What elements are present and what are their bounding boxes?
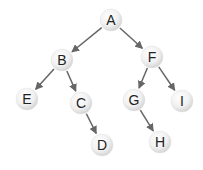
- node-label: D: [97, 137, 107, 153]
- edge-f-i: [159, 67, 175, 90]
- tree-node-a: A: [100, 9, 122, 31]
- edge-b-e: [36, 69, 54, 89]
- edges-group: [36, 28, 175, 134]
- node-label: H: [155, 134, 165, 150]
- tree-node-i: I: [171, 90, 193, 112]
- tree-node-c: C: [70, 92, 92, 114]
- tree-node-d: D: [91, 134, 113, 156]
- node-label: C: [76, 95, 86, 111]
- node-label: F: [148, 49, 157, 65]
- tree-diagram: ABFECGIDH: [0, 0, 203, 170]
- tree-node-g: G: [123, 89, 145, 111]
- tree-node-b: B: [51, 49, 73, 71]
- edge-b-c: [67, 71, 76, 91]
- tree-node-h: H: [149, 131, 171, 153]
- node-label: G: [129, 92, 140, 108]
- edge-a-f: [120, 28, 142, 48]
- node-label: E: [22, 91, 31, 107]
- node-label: B: [57, 52, 66, 68]
- edge-c-d: [86, 114, 96, 134]
- tree-node-f: F: [141, 46, 163, 68]
- node-label: I: [180, 93, 184, 109]
- node-label: A: [106, 12, 116, 28]
- edge-f-g: [139, 68, 147, 88]
- edge-g-h: [140, 110, 153, 131]
- tree-node-e: E: [16, 88, 38, 110]
- edge-a-b: [72, 28, 102, 52]
